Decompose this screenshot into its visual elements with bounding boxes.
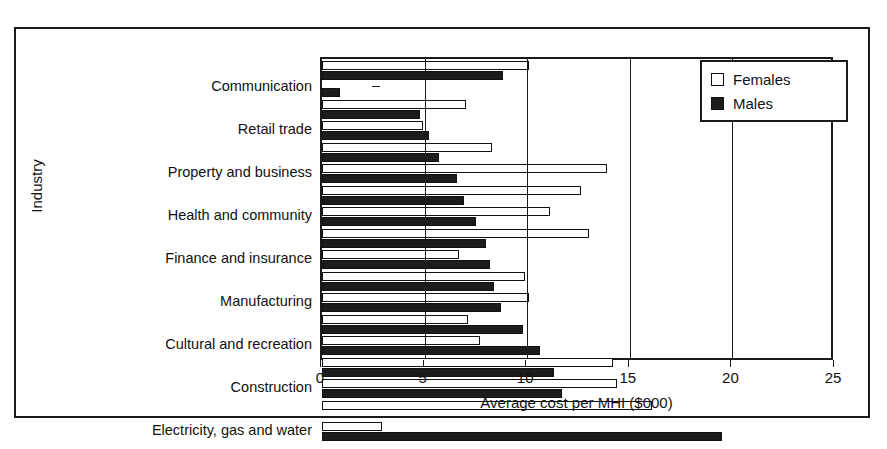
y-axis-title: Industry (28, 159, 45, 212)
bar-male (322, 174, 457, 183)
bar-female (322, 250, 459, 259)
x-tick-label: 5 (403, 369, 443, 386)
x-tick-label: 25 (813, 369, 853, 386)
bar-male (322, 71, 503, 80)
x-tick-label: 10 (505, 369, 545, 386)
y-tick-label: Manufacturing (220, 294, 312, 308)
bar-female (322, 207, 550, 216)
x-tick-mark (628, 360, 629, 367)
bar-male (322, 303, 501, 312)
bar-male (322, 153, 439, 162)
bar-female (322, 293, 529, 302)
y-tick-label: Electricity, gas and water (152, 423, 312, 437)
bar-male (322, 196, 464, 205)
bar-female (322, 61, 529, 70)
legend-swatch-males-icon (711, 97, 724, 110)
legend: Females Males (700, 60, 848, 122)
bar-male (322, 432, 722, 441)
x-tick-mark (320, 360, 321, 367)
bar-male (322, 260, 490, 269)
bar-male (322, 325, 523, 334)
legend-label-males: Males (733, 95, 773, 112)
bar-female (322, 121, 423, 130)
bar-male (322, 131, 429, 140)
y-axis-labels: CommunicationRetail tradeProperty and bu… (60, 57, 318, 360)
y-tick-label: Health and community (168, 208, 312, 222)
gridline-15 (630, 59, 631, 358)
legend-entry-males: Males (711, 91, 846, 115)
y-tick-label: Communication (211, 79, 312, 93)
bar-female (322, 379, 617, 388)
bar-female (322, 272, 525, 281)
gridline-10 (527, 59, 528, 358)
bar-male (322, 239, 486, 248)
bar-female (322, 143, 492, 152)
y-tick-label: Retail trade (238, 122, 312, 136)
bar-female (322, 229, 589, 238)
y-tick-label: Property and business (168, 165, 312, 179)
x-tick-label: 15 (608, 369, 648, 386)
bar-female (322, 315, 468, 324)
x-tick-label: 0 (300, 369, 340, 386)
bar-male (322, 217, 476, 226)
x-tick-mark (525, 360, 526, 367)
bar-male (322, 346, 540, 355)
bar-female (322, 164, 607, 173)
y-tick-label: Finance and insurance (165, 251, 312, 265)
x-axis-title: Average cost per MHI ($000) (320, 394, 833, 411)
bar-male (322, 110, 420, 119)
x-tick-label: 20 (710, 369, 750, 386)
bar-female (322, 186, 581, 195)
legend-swatch-females-icon (711, 73, 724, 86)
bar-male (322, 88, 340, 97)
bar-female (322, 422, 382, 431)
legend-entry-females: Females (711, 67, 846, 91)
bar-female (322, 358, 613, 367)
bar-female (322, 336, 480, 345)
x-tick-mark (730, 360, 731, 367)
gridline-5 (425, 59, 426, 358)
chart-page: Industry CommunicationRetail tradeProper… (0, 0, 887, 449)
y-tick-label: Cultural and recreation (165, 337, 312, 351)
bar-male (322, 282, 494, 291)
legend-label-females: Females (733, 71, 791, 88)
x-tick-mark (833, 360, 834, 367)
bar-female (322, 100, 466, 109)
x-tick-mark (423, 360, 424, 367)
